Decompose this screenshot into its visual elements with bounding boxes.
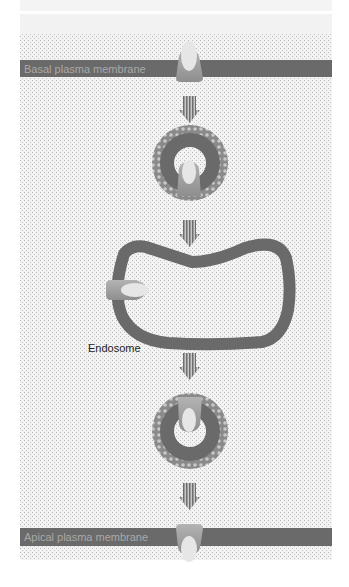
apical-membrane-label: Apical plasma membrane: [24, 531, 148, 543]
endosome-label: Endosome: [88, 342, 141, 354]
coated-vesicle-2: [152, 393, 228, 469]
transcytosis-diagram: Endosome Basal plasma membrane Apical pl…: [0, 0, 349, 587]
coated-vesicle-1: [152, 125, 228, 201]
basal-membrane-label: Basal plasma membrane: [24, 63, 146, 75]
